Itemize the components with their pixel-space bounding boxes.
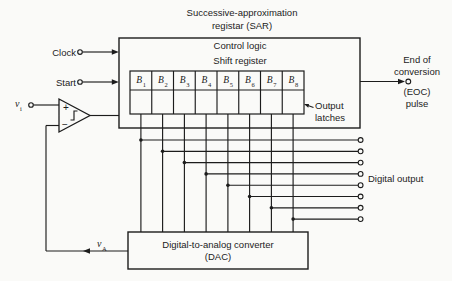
- eoc-label-line4: pulse: [381, 99, 452, 110]
- vi-input-wire: [29, 103, 59, 108]
- hysteresis-icon: [71, 111, 78, 120]
- diagram-title-line2: registar (SAR): [122, 21, 362, 32]
- start-wire: [78, 79, 119, 85]
- diagram-title-line1: Successive-approximation: [122, 8, 362, 19]
- start-label: Start: [36, 78, 76, 89]
- eoc-arrowhead-icon: [398, 79, 405, 85]
- comparator-minus-sign: −: [62, 120, 68, 130]
- clock-terminal-icon: [78, 50, 83, 55]
- shift-register-label: Shift register: [170, 56, 310, 67]
- feedback-arrowhead-icon: [83, 248, 90, 254]
- clock-arrowhead-icon: [112, 49, 119, 55]
- bit-label-b4: B4: [196, 75, 216, 89]
- output-latches-pointer: [304, 104, 314, 108]
- feedback-wire: [46, 126, 128, 254]
- comparator-plus-sign: +: [63, 103, 69, 113]
- digital-output-terminals: [358, 138, 363, 222]
- output-latches-label-line1: Output: [315, 101, 344, 112]
- bit-bus-lines: [141, 114, 293, 232]
- bit-label-b7: B7: [261, 75, 281, 89]
- bit-label-b1: B1: [131, 75, 151, 89]
- clock-wire: [78, 49, 119, 55]
- bit-label-b3: B3: [174, 75, 194, 89]
- bit-label-b8: B8: [283, 75, 303, 89]
- eoc-label-line2: conversion: [381, 67, 452, 78]
- start-terminal-icon: [78, 80, 83, 85]
- va-label: vA: [97, 239, 106, 254]
- eoc-wire: [360, 79, 411, 85]
- control-logic-label: Control logic: [170, 41, 310, 52]
- digital-output-label: Digital output: [368, 174, 423, 185]
- bit-label-b6: B6: [240, 75, 260, 89]
- sar-adc-block-diagram: Successive-approximation registar (SAR) …: [0, 0, 452, 281]
- bit-label-b5: B5: [218, 75, 238, 89]
- dac-label-line2: (DAC): [133, 252, 303, 263]
- output-latches-arrowhead-icon: [304, 104, 309, 108]
- eoc-label-line3: (EOC): [381, 87, 452, 98]
- dac-label-line1: Digital-to-analog converter: [133, 240, 303, 251]
- output-latches-label-line2: latches: [315, 113, 345, 124]
- bit-label-b2: B2: [153, 75, 173, 89]
- eoc-label-line1: End of: [381, 55, 452, 66]
- vi-terminal-icon: [29, 103, 34, 108]
- clock-label: Clock: [36, 48, 76, 59]
- eoc-terminal-icon: [406, 79, 411, 84]
- start-arrowhead-icon: [112, 79, 119, 85]
- vi-label: vi: [15, 99, 21, 114]
